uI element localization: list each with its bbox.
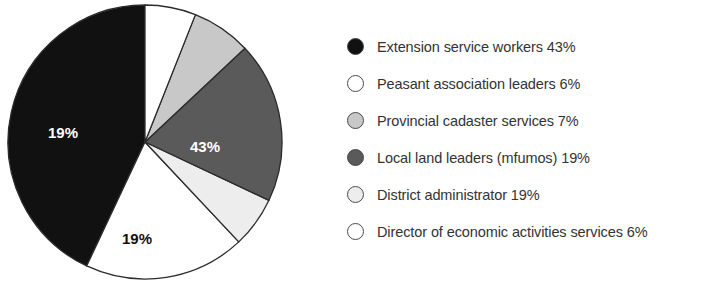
legend-item[interactable]: Peasant association leaders 6% — [347, 65, 713, 102]
pie-slice-data-label: 7% — [77, 43, 99, 60]
legend-item-label: Peasant association leaders 6% — [377, 76, 580, 92]
pie-slice-data-label: 19% — [122, 230, 152, 247]
pie-chart-plot-area: 43%19%6%19%7%6% — [0, 0, 340, 282]
legend-item[interactable]: Local land leaders (mfumos) 19% — [347, 139, 713, 176]
legend-item-label: Director of economic activities services… — [377, 224, 648, 240]
pie-slice-data-label: 43% — [190, 138, 220, 155]
legend-swatch-black — [347, 38, 364, 55]
legend-item-label: District administrator 19% — [377, 187, 540, 203]
legend: Extension service workers 43% Peasant as… — [347, 28, 713, 260]
pie-chart-svg: 43%19%6%19%7%6% — [0, 0, 340, 282]
legend-item[interactable]: Provincial cadaster services 7% — [347, 102, 713, 139]
legend-item[interactable]: Extension service workers 43% — [347, 28, 713, 65]
legend-swatch-very-light-gray — [347, 186, 364, 203]
legend-item-label: Provincial cadaster services 7% — [377, 113, 579, 129]
pie-slice-data-label: 6% — [115, 16, 137, 33]
legend-swatch-light-gray — [347, 112, 364, 129]
legend-swatch-dark-gray — [347, 149, 364, 166]
legend-item[interactable]: Director of economic activities services… — [347, 213, 713, 250]
pie-slice-data-label: 6% — [43, 199, 65, 216]
pie-chart-figure: 43%19%6%19%7%6% Extension service worker… — [0, 0, 713, 282]
pie-slice-data-label: 19% — [48, 124, 78, 141]
legend-swatch-white — [347, 75, 364, 92]
legend-item-label: Local land leaders (mfumos) 19% — [377, 150, 590, 166]
legend-item-label: Extension service workers 43% — [377, 39, 576, 55]
legend-item[interactable]: District administrator 19% — [347, 176, 713, 213]
legend-swatch-white — [347, 223, 364, 240]
